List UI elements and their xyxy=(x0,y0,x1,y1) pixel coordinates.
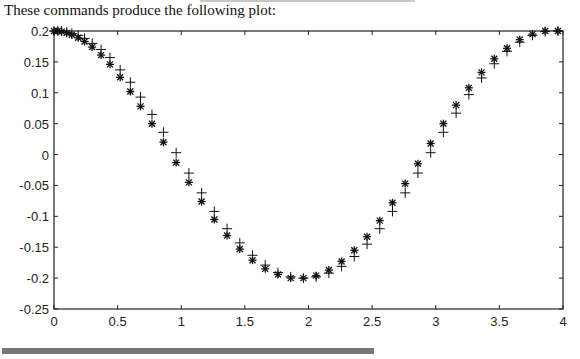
x-tick-label: 2.5 xyxy=(363,314,381,329)
x-tick-label: 2 xyxy=(305,314,312,329)
plot-markers xyxy=(49,26,563,283)
y-tick-label: -0.1 xyxy=(27,209,49,224)
y-tick-label: 0.15 xyxy=(24,55,49,70)
x-tick-label: 3.5 xyxy=(490,314,508,329)
bottom-bar-divider xyxy=(2,348,374,354)
plus-markers-series xyxy=(49,26,563,283)
x-tick-label: 4 xyxy=(559,314,566,329)
y-tick-label: 0.05 xyxy=(24,117,49,132)
y-tick-label: -0.25 xyxy=(19,302,49,317)
x-tick-label: 0.5 xyxy=(109,314,127,329)
scatter-plot: 00.511.522.533.540.20.150.10.050-0.05-0.… xyxy=(0,0,580,359)
y-tick-label: 0.2 xyxy=(31,24,49,39)
x-tick-label: 3 xyxy=(432,314,439,329)
y-tick-label: -0.05 xyxy=(19,178,49,193)
y-tick-label: 0 xyxy=(42,148,49,163)
star-markers-series xyxy=(50,27,562,282)
x-tick-label: 1.5 xyxy=(236,314,254,329)
y-tick-label: 0.1 xyxy=(31,86,49,101)
x-tick-label: 1 xyxy=(178,314,185,329)
y-tick-label: -0.2 xyxy=(27,271,49,286)
plot-frame xyxy=(54,31,563,309)
plot-axes xyxy=(54,31,563,309)
y-tick-label: -0.15 xyxy=(19,240,49,255)
plot-ticks xyxy=(54,31,563,309)
x-tick-label: 0 xyxy=(50,314,57,329)
